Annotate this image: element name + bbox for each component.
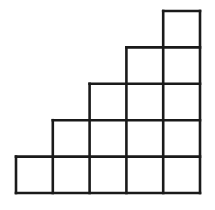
unit-square bbox=[90, 120, 127, 156]
unit-square bbox=[126, 120, 163, 156]
unit-square bbox=[90, 84, 127, 120]
unit-square bbox=[163, 11, 200, 47]
unit-square bbox=[163, 157, 200, 193]
unit-square bbox=[53, 157, 90, 193]
unit-square bbox=[163, 84, 200, 120]
unit-square bbox=[163, 120, 200, 156]
staircase-figure bbox=[0, 0, 215, 210]
unit-square bbox=[90, 157, 127, 193]
unit-square bbox=[126, 47, 163, 83]
unit-square bbox=[126, 157, 163, 193]
unit-square bbox=[16, 157, 53, 193]
unit-square bbox=[126, 84, 163, 120]
unit-square bbox=[53, 120, 90, 156]
unit-square bbox=[163, 47, 200, 83]
staircase-svg bbox=[0, 0, 215, 210]
